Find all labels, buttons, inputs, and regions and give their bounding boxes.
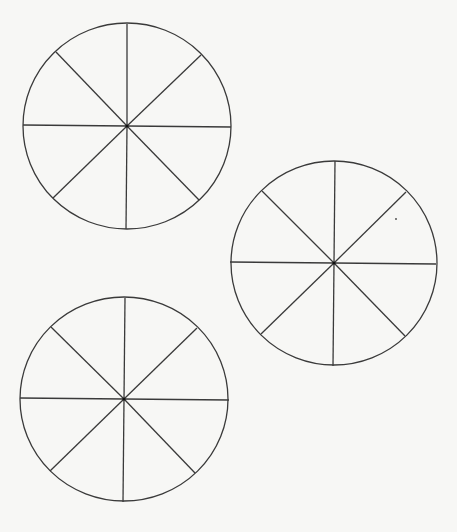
spoke-line	[23, 125, 127, 126]
stray-mark	[395, 218, 397, 220]
center-dot	[125, 124, 128, 127]
spoke-line	[51, 327, 124, 399]
spoke-line	[124, 298, 125, 399]
drawing-canvas	[0, 0, 457, 532]
spoke-line	[334, 161, 335, 263]
spoke-line	[127, 126, 199, 200]
spoke-line	[124, 328, 197, 399]
spoke-line	[123, 399, 124, 502]
spoke-line	[334, 263, 436, 264]
spoke-line	[53, 126, 127, 198]
spoke-line	[56, 52, 127, 126]
spoke-line	[333, 263, 334, 366]
spoke-line	[334, 192, 406, 263]
circle-right	[230, 161, 437, 366]
spoke-line	[124, 399, 229, 400]
spoke-line	[127, 55, 201, 126]
spoke-line	[261, 263, 334, 334]
spoke-line	[127, 126, 231, 127]
spoke-line	[334, 263, 405, 336]
center-dot	[332, 261, 335, 264]
spoke-line	[124, 399, 195, 473]
circle-bottom-left	[20, 297, 229, 502]
spoke-line	[50, 399, 124, 471]
spoke-line	[262, 191, 334, 263]
spoke-line	[20, 398, 124, 399]
spoke-line	[230, 262, 334, 263]
center-dot	[122, 397, 125, 400]
circle-top-left	[23, 23, 231, 229]
spoke-line	[126, 126, 127, 229]
